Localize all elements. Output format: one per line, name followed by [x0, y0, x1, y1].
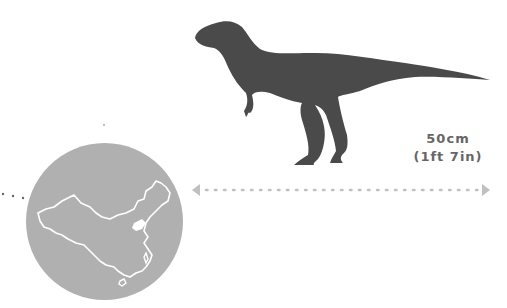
arrow-left-icon — [192, 184, 200, 196]
china-map-icon — [26, 143, 183, 300]
size-imperial: (1ft 7in) — [398, 148, 498, 166]
size-metric: 50cm — [398, 130, 498, 148]
arrow-right-icon — [482, 184, 490, 196]
decorative-dot — [103, 124, 105, 126]
length-arrow — [190, 180, 495, 200]
size-label: 50cm (1ft 7in) — [398, 130, 498, 166]
